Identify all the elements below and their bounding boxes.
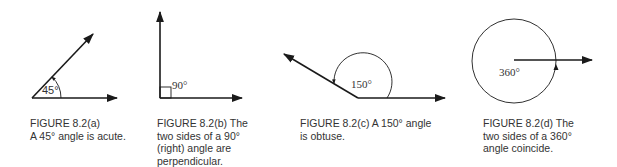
angle-label-150: 150°: [351, 78, 372, 90]
rotation-arrow-tip: [554, 64, 559, 70]
caption-figure-a: FIGURE 8.2(a) A 45° angle is acute.: [30, 117, 145, 142]
rotation-circle: [472, 19, 556, 103]
figure-b-right-angle: 90°: [160, 12, 242, 98]
caption-figure-d: FIGURE 8.2(d) The two sides of a 360° an…: [483, 117, 593, 155]
ray-oblique: [284, 54, 358, 98]
caption-figure-b: FIGURE 8.2(b) The two sides of a 90° (ri…: [157, 117, 262, 167]
angle-label-360: 360°: [499, 66, 520, 78]
figure-d-full-angle: 360°: [472, 19, 592, 103]
angle-label-90: 90°: [172, 79, 187, 91]
figure-c-obtuse-angle: 150°: [284, 53, 445, 98]
figure-a-acute-angle: 45°: [32, 34, 117, 98]
angle-arc: [334, 53, 392, 98]
angle-label-45: 45°: [42, 84, 59, 96]
right-angle-square: [160, 87, 171, 98]
caption-figure-c: FIGURE 8.2(c) A 150° angle is obtuse.: [300, 117, 450, 142]
